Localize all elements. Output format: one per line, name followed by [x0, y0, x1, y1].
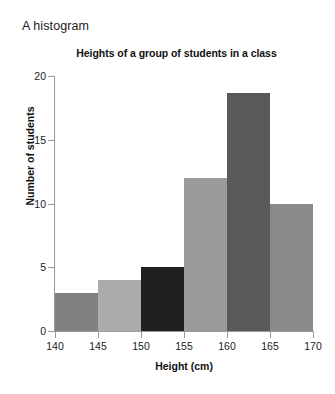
- x-tick-label: 145: [78, 341, 118, 352]
- x-tick-mark: [227, 332, 228, 338]
- y-tick-mark: [48, 204, 54, 205]
- chart-title: Heights of a group of students in a clas…: [0, 47, 335, 59]
- x-tick-mark: [55, 332, 56, 338]
- x-tick-label: 155: [164, 341, 204, 352]
- y-tick-label: 5: [6, 262, 46, 273]
- figure-caption: A histogram: [22, 19, 89, 33]
- x-tick-label: 170: [293, 341, 333, 352]
- x-tick-label: 140: [35, 341, 75, 352]
- histogram-bar: [98, 280, 141, 331]
- histogram-bar: [141, 267, 184, 331]
- x-tick-label: 160: [207, 341, 247, 352]
- histogram-bar: [270, 204, 313, 332]
- y-tick-mark: [48, 140, 54, 141]
- x-tick-mark: [184, 332, 185, 338]
- x-tick-mark: [270, 332, 271, 338]
- y-tick-mark: [48, 267, 54, 268]
- y-axis-title: Number of students: [24, 76, 36, 236]
- x-tick-label: 165: [250, 341, 290, 352]
- x-tick-mark: [141, 332, 142, 338]
- plot-area: [55, 76, 313, 331]
- histogram-bar: [55, 293, 98, 331]
- x-tick-label: 150: [121, 341, 161, 352]
- histogram-figure: A histogram Heights of a group of studen…: [0, 0, 335, 394]
- histogram-bar: [184, 178, 227, 331]
- histogram-bar: [227, 93, 270, 331]
- x-axis-title: Height (cm): [55, 360, 313, 372]
- y-tick-label: 0: [6, 326, 46, 337]
- x-tick-mark: [98, 332, 99, 338]
- y-tick-mark: [48, 331, 54, 332]
- x-tick-mark: [313, 332, 314, 338]
- y-tick-mark: [48, 76, 54, 77]
